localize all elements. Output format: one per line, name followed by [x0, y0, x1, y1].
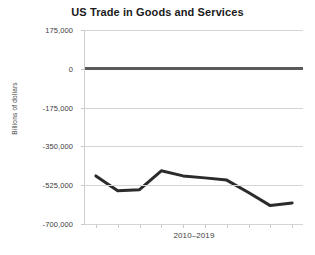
series-polyline: [96, 171, 292, 206]
gridline: [85, 108, 303, 109]
y-tick-label: 175,000: [45, 26, 73, 35]
zero-gridline: [85, 67, 303, 70]
y-axis-tick: [81, 224, 84, 225]
y-axis-tick: [81, 108, 84, 109]
x-axis-tick: [118, 225, 119, 228]
x-axis-tick: [140, 225, 141, 228]
x-axis-tick: [270, 225, 271, 228]
y-axis-tick: [81, 69, 84, 70]
x-axis-tick: [183, 225, 184, 228]
x-axis-tick: [205, 225, 206, 228]
gridline: [85, 146, 303, 147]
y-axis-tick: [81, 146, 84, 147]
x-axis-tick: [249, 225, 250, 228]
chart-container: US Trade in Goods and Services Billions …: [0, 0, 315, 255]
x-axis-label: 2010–2019: [85, 231, 303, 240]
y-tick-label: -175,000: [43, 103, 73, 112]
x-axis-tick: [161, 225, 162, 228]
gridline: [85, 185, 303, 186]
chart-title: US Trade in Goods and Services: [0, 6, 315, 18]
y-tick-label: 0: [69, 64, 73, 73]
y-axis-tick: [81, 185, 84, 186]
x-axis-tick: [292, 225, 293, 228]
data-series-line: [85, 30, 303, 224]
plot-area: [85, 30, 303, 224]
y-tick-label: -700,000: [43, 220, 73, 229]
y-axis-tick-labels: 175,0000-175,000-350,000-525,000-700,000: [0, 30, 80, 224]
gridline: [85, 30, 303, 31]
x-axis-tick: [227, 225, 228, 228]
y-tick-label: -525,000: [43, 181, 73, 190]
x-axis-tick: [96, 225, 97, 228]
y-axis-tick: [81, 30, 84, 31]
y-tick-label: -350,000: [43, 142, 73, 151]
